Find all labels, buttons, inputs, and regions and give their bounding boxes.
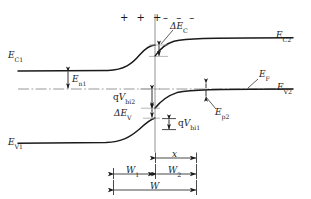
label-delta-ec-sub: C: [183, 27, 188, 34]
conduction-band-2-curve: [155, 38, 293, 56]
label-dim-w2: W2: [168, 166, 181, 175]
label-dim-w-text: W: [150, 181, 159, 191]
valence-band-2-curve: [155, 89, 293, 108]
band-diagram-figure: + + + – – – EC1 EC2 EV1 EV2 EF ΔEC En1 E…: [0, 0, 311, 199]
label-en1-text: E: [72, 74, 79, 84]
label-delta-ev-text: ΔE: [114, 108, 127, 118]
label-ef-sub: F: [266, 75, 270, 82]
valence-band-1-curve: [18, 118, 155, 143]
label-ec1-text: E: [8, 50, 15, 60]
label-dim-w1-text: W: [126, 165, 135, 175]
label-ec2-sub: C2: [283, 36, 292, 43]
label-ev1-text: E: [8, 137, 15, 147]
label-dim-w1-sub: 1: [135, 171, 139, 178]
label-en1: En1: [72, 75, 87, 84]
label-ev2-text: E: [277, 82, 284, 92]
positive-charge-label: + + +: [120, 12, 164, 23]
label-ec1: EC1: [8, 51, 23, 60]
label-qvbi2: qVbi2: [113, 93, 135, 102]
label-ev2-sub: V2: [284, 88, 292, 95]
label-qvbi1-sub: bi1: [190, 124, 200, 131]
label-ep2-sub: p2: [222, 113, 230, 120]
label-ec2: EC2: [276, 31, 291, 40]
ef-leader: [248, 79, 258, 88]
label-en1-sub: n1: [79, 80, 87, 87]
label-qvbi1: qVbi1: [178, 119, 200, 128]
label-ev2: EV2: [277, 83, 292, 92]
label-ec1-sub: C1: [15, 56, 24, 63]
label-dim-w1: W1: [126, 166, 139, 175]
label-dim-w2-sub: 2: [177, 171, 181, 178]
label-ep2-text: E: [215, 107, 222, 117]
label-delta-ev: ΔEV: [114, 109, 132, 118]
label-ef-text: E: [259, 69, 266, 79]
label-dim-w2-text: W: [168, 165, 177, 175]
label-dim-x: x: [172, 150, 177, 159]
label-ep2: Ep2: [215, 108, 229, 117]
band-diagram-canvas: [0, 0, 311, 199]
label-ec2-text: E: [276, 30, 283, 40]
label-qvbi2-sub: bi2: [125, 98, 135, 105]
label-delta-ec-text: ΔE: [170, 21, 183, 31]
label-ev1-sub: V1: [15, 143, 23, 150]
label-ev1: EV1: [8, 138, 23, 147]
label-ef: EF: [259, 70, 270, 79]
label-dim-x-text: x: [172, 149, 177, 159]
label-delta-ec: ΔEC: [170, 22, 188, 31]
conduction-band-1-curve: [18, 45, 155, 71]
label-dim-w: W: [150, 182, 159, 191]
label-delta-ev-sub: V: [127, 114, 131, 121]
